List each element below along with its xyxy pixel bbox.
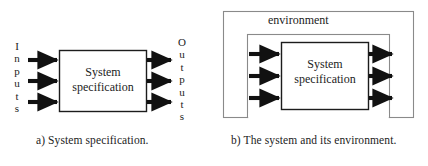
outputs-letter: t — [180, 61, 183, 73]
outputs-letter: u — [179, 48, 185, 60]
caption-panel-a: a) System specification. — [36, 134, 149, 146]
inputs-letter: I — [15, 40, 19, 52]
outputs-letter: p — [179, 73, 185, 85]
inputs-letter: s — [15, 102, 19, 114]
outputs-letter: O — [178, 36, 186, 48]
outputs-letter: t — [180, 98, 183, 110]
outputs-letter: u — [179, 86, 185, 98]
system-specification-label-b: System specification — [282, 57, 368, 87]
input-arrows-a — [28, 60, 57, 102]
figure-container: I n p u t s O u t p u t s System specifi… — [0, 0, 428, 166]
environment-bottom-opening — [248, 113, 389, 121]
inputs-letter: t — [15, 90, 18, 102]
inputs-letter: p — [14, 65, 20, 77]
output-arrows-a — [147, 60, 171, 102]
outputs-label: O u t p u t s — [174, 36, 190, 123]
inputs-letter: n — [14, 52, 20, 64]
system-specification-line1-a: System — [59, 65, 147, 80]
environment-label: environment — [268, 13, 329, 28]
inputs-label: I n p u t s — [9, 40, 25, 114]
system-specification-label-a: System specification — [59, 65, 147, 95]
outputs-letter: s — [180, 110, 184, 122]
system-specification-line2-b: specification — [282, 72, 368, 87]
system-specification-line2-a: specification — [59, 80, 147, 95]
system-specification-line1-b: System — [282, 57, 368, 72]
inputs-letter: u — [14, 77, 20, 89]
caption-panel-b: b) The system and its environment. — [231, 134, 396, 146]
